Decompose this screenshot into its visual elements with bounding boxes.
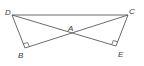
segment-de	[12, 15, 116, 46]
label-b: B	[18, 51, 24, 60]
geometry-diagram: D C B E A	[0, 0, 144, 66]
label-a: A	[67, 24, 73, 33]
segment-ce	[116, 15, 128, 46]
label-c: C	[129, 7, 135, 16]
label-e: E	[118, 50, 124, 59]
label-d: D	[5, 8, 11, 17]
segment-db	[12, 15, 25, 48]
